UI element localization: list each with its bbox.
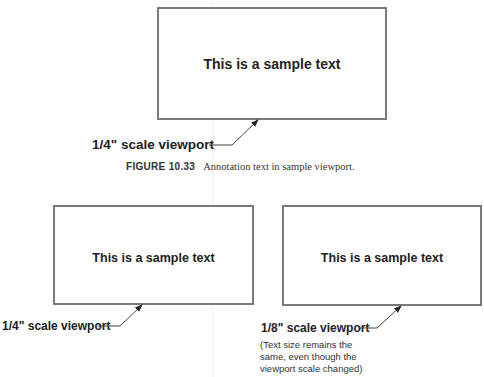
leader-arrow-bottom-left bbox=[98, 305, 142, 326]
leader-arrow-top bbox=[209, 120, 258, 145]
leader-lines bbox=[0, 0, 484, 377]
leader-arrow-bottom-right bbox=[360, 306, 401, 328]
